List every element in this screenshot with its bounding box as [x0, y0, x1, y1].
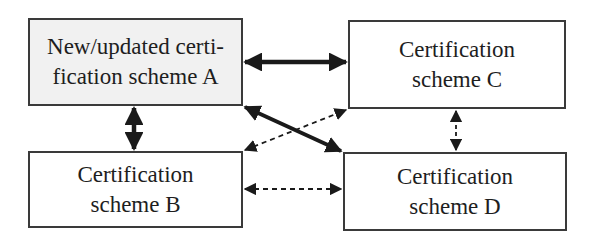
edge-a-d-solid-arrow [245, 107, 341, 151]
node-d-label-line-1: Certification [397, 162, 513, 192]
node-c-label-line-2: scheme C [412, 65, 502, 95]
node-a-label-line-1: New/updated certi- [47, 32, 224, 62]
edge-b-c-dashed-arrow [245, 110, 346, 150]
node-b-label-line-1: Certification [77, 160, 193, 190]
node-c-label-line-1: Certification [399, 35, 515, 65]
node-b-label-line-2: scheme B [90, 190, 180, 220]
node-a-label-line-2: fication scheme A [52, 62, 218, 92]
node-certification-scheme-a: New/updated certi- fication scheme A [28, 18, 243, 106]
node-certification-scheme-c: Certification scheme C [348, 20, 566, 109]
node-certification-scheme-d: Certification scheme D [343, 152, 567, 231]
node-d-label-line-2: scheme D [409, 192, 500, 222]
node-certification-scheme-b: Certification scheme B [28, 151, 243, 228]
